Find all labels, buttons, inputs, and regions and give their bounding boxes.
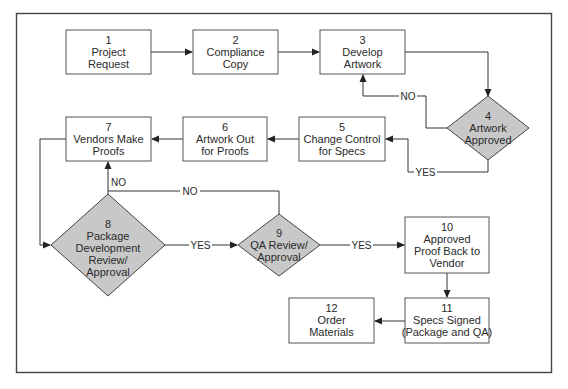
node-9-number: 9: [276, 227, 282, 239]
node-7-line-2: Proofs: [93, 145, 125, 157]
node-3-line-2: Artwork: [344, 58, 382, 70]
node-8-line-1: Package: [87, 230, 130, 242]
node-2-line-2: Copy: [223, 58, 249, 70]
edge-label-no-9-7: NO: [183, 186, 198, 197]
node-12-number: 12: [325, 302, 337, 314]
node-9-line-1: QA Review/: [250, 239, 308, 251]
node-2-compliance-copy: 2 Compliance Copy: [193, 30, 278, 74]
node-6-line-2: for Proofs: [201, 145, 249, 157]
node-5-change-control: 5 Change Control for Specs: [299, 117, 385, 161]
edge-label-yes-8-9: YES: [190, 240, 210, 251]
node-10-approved-proof-back: 10 Approved Proof Back to Vendor: [405, 217, 489, 273]
node-8-line-2: Development: [76, 242, 141, 254]
node-6-line-1: Artwork Out: [196, 133, 254, 145]
node-5-line-2: for Specs: [319, 145, 366, 157]
edge-label-yes-4-5: YES: [415, 167, 435, 178]
edge-label-yes-9-10: YES: [351, 240, 371, 251]
node-1-line-1: Project: [91, 46, 125, 58]
node-5-number: 5: [339, 121, 345, 133]
node-3-number: 3: [359, 34, 365, 46]
node-1-line-2: Request: [88, 58, 129, 70]
node-9-line-2: Approval: [257, 251, 300, 263]
edge-label-no-4-3: NO: [401, 91, 416, 102]
node-12-line-1: Order: [317, 314, 345, 326]
node-2-number: 2: [232, 34, 238, 46]
node-6-artwork-out-for-proofs: 6 Artwork Out for Proofs: [183, 117, 267, 161]
node-4-line-2: Approved: [464, 134, 511, 146]
node-10-line-2: Proof Back to: [414, 245, 480, 257]
node-3-develop-artwork: 3 Develop Artwork: [320, 30, 405, 74]
node-7-line-1: Vendors Make: [73, 133, 143, 145]
node-8-number: 8: [105, 218, 111, 230]
node-7-number: 7: [105, 121, 111, 133]
node-8-line-4: Approval: [86, 266, 129, 278]
flowchart-diagram: NO YES NO NO YES YES 1 Project Request 2…: [0, 0, 568, 389]
node-10-number: 10: [441, 221, 453, 233]
node-7-vendors-make-proofs: 7 Vendors Make Proofs: [66, 117, 151, 161]
node-6-number: 6: [222, 121, 228, 133]
node-11-line-1: Specs Signed: [413, 314, 481, 326]
node-2-line-1: Compliance: [206, 46, 264, 58]
node-12-line-2: Materials: [309, 326, 354, 338]
node-8-line-3: Review/: [88, 254, 128, 266]
node-11-number: 11: [441, 302, 452, 314]
node-4-number: 4: [485, 110, 491, 122]
node-10-line-1: Approved: [423, 233, 470, 245]
node-4-line-1: Artwork: [469, 122, 507, 134]
node-11-specs-signed: 11 Specs Signed (Package and QA): [402, 298, 493, 343]
node-5-line-1: Change Control: [303, 133, 380, 145]
node-3-line-1: Develop: [342, 46, 382, 58]
node-1-project-request: 1 Project Request: [66, 30, 151, 74]
node-10-line-3: Vendor: [430, 257, 465, 269]
node-1-number: 1: [105, 34, 111, 46]
node-12-order-materials: 12 Order Materials: [289, 298, 374, 343]
node-11-line-2: (Package and QA): [402, 326, 493, 338]
edge-label-no-8-7: NO: [111, 177, 126, 188]
